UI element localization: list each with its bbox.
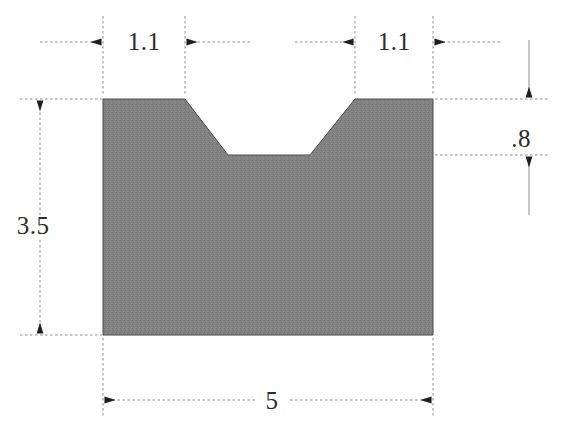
dimension-overall-width: 5	[105, 387, 431, 414]
dimension-overall-height: 3.5	[17, 101, 50, 333]
drawing-svg: 1.1 1.1 3.5 .8 5	[0, 0, 564, 427]
dim-label-width-left-flat: 1.1	[128, 28, 161, 55]
part-body-shape	[103, 99, 433, 335]
dimension-width-right-flat: 1.1	[295, 28, 500, 55]
dim-label-overall-height: 3.5	[17, 212, 50, 239]
technical-drawing-canvas: 1.1 1.1 3.5 .8 5	[0, 0, 564, 427]
dim-label-width-right-flat: 1.1	[378, 28, 411, 55]
dim-label-notch-depth: .8	[511, 125, 531, 152]
dim-label-overall-width: 5	[266, 387, 279, 414]
dimension-notch-depth: .8	[511, 40, 531, 215]
dimension-width-left-flat: 1.1	[40, 28, 250, 55]
